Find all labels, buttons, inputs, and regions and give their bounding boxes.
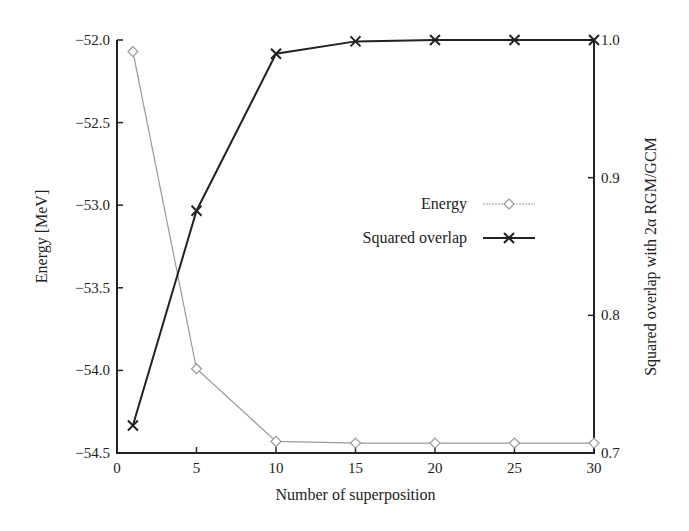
x-tick-label: 25 [507, 460, 522, 476]
y-tick-label-left: −53.5 [75, 280, 110, 296]
x-tick-label: 30 [587, 460, 602, 476]
y-tick-label-right: 1.0 [601, 32, 620, 48]
y-tick-label-left: −52.0 [75, 32, 110, 48]
y-axis-title-left: Energy [MeV] [33, 190, 51, 283]
x-axis-title: Number of superposition [276, 486, 436, 504]
y-tick-label-right: 0.9 [601, 170, 620, 186]
diamond-marker-icon [504, 199, 514, 209]
y-tick-label-left: −54.5 [75, 445, 110, 461]
x-tick-label: 10 [269, 460, 284, 476]
diamond-marker-icon [430, 438, 440, 448]
diamond-marker-icon [351, 438, 361, 448]
y-tick-label-left: −52.5 [75, 115, 110, 131]
legend-overlap-label: Squared overlap [363, 229, 467, 247]
x-tick-label: 20 [428, 460, 443, 476]
chart-canvas: 051015202530−52.0−52.5−53.0−53.5−54.0−54… [0, 0, 689, 531]
y-tick-label-right: 0.7 [601, 445, 620, 461]
y-tick-label-right: 0.8 [601, 307, 620, 323]
energy-line [133, 52, 594, 444]
diamond-marker-icon [128, 47, 138, 57]
y-tick-label-left: −54.0 [75, 362, 110, 378]
y-axis-title-right: Squared overlap with 2α RGM/GCM [642, 137, 660, 376]
diamond-marker-icon [589, 438, 599, 448]
y-tick-label-left: −53.0 [75, 197, 110, 213]
x-tick-label: 0 [113, 460, 121, 476]
legend-energy-label: Energy [421, 195, 467, 213]
x-tick-label: 5 [193, 460, 201, 476]
legend: Energy Squared overlap [363, 195, 535, 247]
axis-frame [117, 40, 594, 453]
axes: 051015202530−52.0−52.5−53.0−53.5−54.0−54… [33, 32, 660, 504]
diamond-marker-icon [510, 438, 520, 448]
x-tick-label: 15 [348, 460, 363, 476]
